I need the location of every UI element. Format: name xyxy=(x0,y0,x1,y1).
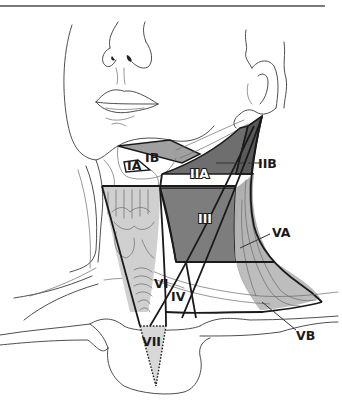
neck-levels-diagram: IB IA IIA IIB III VA VI IV VB VII xyxy=(0,0,342,409)
label-IIB: IIB xyxy=(258,156,277,171)
label-IA: IA xyxy=(127,158,142,173)
label-IV: IV xyxy=(171,289,186,304)
label-IB: IB xyxy=(145,150,159,165)
label-VI: VI xyxy=(154,276,168,291)
label-IIA: IIA xyxy=(190,166,209,181)
label-VII: VII xyxy=(142,334,161,349)
label-VB: VB xyxy=(296,328,315,343)
label-VA: VA xyxy=(272,225,291,240)
label-III: III xyxy=(198,211,212,226)
